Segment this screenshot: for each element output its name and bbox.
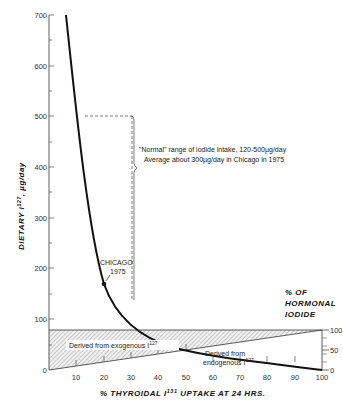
y-tick-500: 500: [34, 112, 47, 121]
y2-title-line2: HORMONAL: [285, 299, 336, 308]
y2-tick-0: 0: [330, 366, 334, 375]
x-tick-10: 10: [72, 373, 80, 382]
y-tick-100: 100: [34, 315, 47, 324]
chicago-1975-point: [102, 282, 107, 287]
x-tick-70: 70: [236, 373, 244, 382]
x-tick-20: 20: [100, 373, 108, 382]
y-tick-600: 600: [34, 62, 47, 71]
y-tick-400: 400: [34, 163, 47, 172]
y-tick-200: 200: [34, 264, 47, 273]
x-tick-100: 100: [316, 373, 329, 382]
y2-axis: 100 50 0: [322, 326, 343, 375]
y-tick-0: 0: [43, 366, 47, 375]
x-tick-60: 60: [209, 373, 217, 382]
chicago-label: CHICAGO: [100, 259, 133, 266]
dietary-uptake-curve: [66, 15, 322, 370]
y-tick-300: 300: [34, 214, 47, 223]
x-tick-80: 80: [263, 373, 271, 382]
x-axis-title: % THYROIDAL I131 UPTAKE AT 24 HRS.: [100, 388, 265, 398]
y2-title-line1: % OF: [285, 288, 308, 297]
y-tick-700: 700: [34, 11, 47, 20]
x-tick-40: 40: [154, 373, 162, 382]
chicago-pointer: [106, 275, 110, 281]
chart-canvas: 700 600 500 400 300 200 100 0 DIETARY I1…: [0, 0, 343, 405]
y2-tick-50: 50: [330, 346, 338, 355]
normal-range-label: "Normal" range of iodide intake, 120-500…: [139, 146, 287, 154]
average-label: Average about 300µg/day in Chicago in 19…: [144, 156, 284, 164]
y-axis: 700 600 500 400 300 200 100 0: [34, 11, 54, 375]
y-axis-title: DIETARY I127, µg/day: [16, 162, 26, 250]
endogenous-label-line1: Derived from: [205, 350, 245, 357]
endogenous-label-line2: endogenous I127: [203, 357, 254, 367]
x-tick-50: 50: [182, 373, 190, 382]
chicago-year: 1975: [110, 268, 126, 275]
y2-tick-100: 100: [330, 326, 343, 335]
exogenous-label: Derived from exogenous I127: [69, 340, 158, 350]
x-tick-30: 30: [127, 373, 135, 382]
x-tick-90: 90: [291, 373, 299, 382]
y2-title-line3: IODIDE: [285, 310, 316, 319]
